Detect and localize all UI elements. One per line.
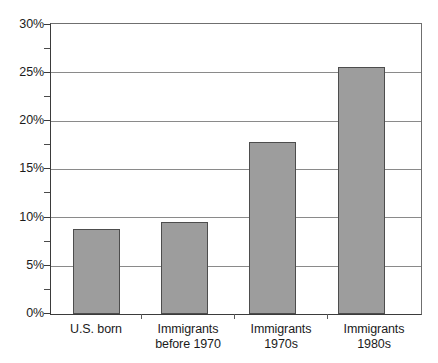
y-tick-label-25: 25%	[19, 65, 44, 79]
y-tick-label-15: 15%	[19, 161, 44, 175]
category-label-immigrants-before-1970: Immigrants before 1970	[143, 322, 233, 352]
x-tick-3	[327, 314, 328, 319]
y-tick-label-20: 20%	[19, 113, 44, 127]
y-tick-label-10: 10%	[19, 210, 44, 224]
bar-immigrants-1980s[interactable]	[338, 67, 385, 314]
category-label-line1: Immigrants	[344, 322, 405, 336]
y-tick-label-30: 30%	[19, 17, 44, 31]
category-label-immigrants-1970s: Immigrants 1970s	[236, 322, 326, 352]
category-label-line1: Immigrants	[158, 322, 219, 336]
category-label-line2: 1980s	[329, 337, 419, 352]
bar-immigrants-before-1970[interactable]	[161, 222, 208, 314]
plot-area	[50, 23, 422, 315]
x-tick-2	[234, 314, 235, 319]
bar-us-born[interactable]	[73, 229, 120, 314]
category-label-line1: U.S. born	[70, 322, 122, 336]
category-label-line2: before 1970	[143, 337, 233, 352]
y-tick-label-5: 5%	[26, 258, 44, 272]
bar-chart: 0% 5% 10% 15% 20% 25% 30% U.S. born	[0, 0, 438, 363]
category-label-line1: Immigrants	[251, 322, 312, 336]
category-label-immigrants-1980s: Immigrants 1980s	[329, 322, 419, 352]
y-tick-label-0: 0%	[26, 306, 44, 320]
y-axis-labels: 0% 5% 10% 15% 20% 25% 30%	[0, 0, 44, 363]
bar-immigrants-1970s[interactable]	[249, 142, 296, 314]
x-tick-1	[141, 314, 142, 319]
category-label-line2: 1970s	[236, 337, 326, 352]
category-label-us-born: U.S. born	[51, 322, 141, 337]
